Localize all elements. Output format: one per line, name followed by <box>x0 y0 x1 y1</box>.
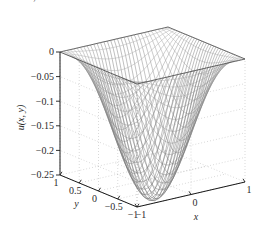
y-axis-label: y <box>73 198 79 209</box>
z-tick-label: −0.05 <box>31 71 54 82</box>
mesh-surface <box>60 27 245 201</box>
z-tick-label: −0.1 <box>36 96 54 107</box>
z-tick-label: −0.15 <box>31 120 54 131</box>
z-tick-label: −0.25 <box>31 169 54 180</box>
z-axis-label: u(x, y) <box>15 104 27 130</box>
z-tick-label: −0.2 <box>36 145 54 156</box>
y-tick-label: 0 <box>92 193 97 204</box>
x-tick-label: 0 <box>193 197 198 208</box>
surface-plot-svg: −0.25−0.2−0.15−0.1−0.050−1−0.500.51−101 … <box>0 0 266 250</box>
figure-container: ▬▬ ▬, ▬▬▬▬ ▬▬▬ ▬▬▬ ▬▬▬▬▬▬ ▬▬▬▬▬▬, ▬▬ ▬▬ … <box>0 0 266 250</box>
x-tick-label: −1 <box>136 209 147 220</box>
z-tick-label: 0 <box>49 46 54 57</box>
x-tick-label: 1 <box>247 184 252 195</box>
x-axis-label: x <box>193 211 199 222</box>
y-tick-label: 1 <box>54 177 59 188</box>
y-tick-label: −0.5 <box>105 201 123 212</box>
y-tick-label: 0.5 <box>69 185 82 196</box>
